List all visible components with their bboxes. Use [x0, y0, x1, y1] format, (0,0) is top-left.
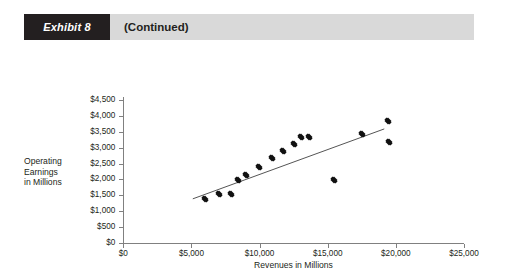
exhibit-badge: Exhibit 8 — [24, 14, 110, 40]
exhibit-badge-label: Exhibit 8 — [24, 14, 110, 40]
trend-line — [0, 44, 506, 266]
scatter-chart: OperatingEarningsin Millions Revenues in… — [0, 44, 506, 266]
exhibit-title: (Continued) — [124, 14, 189, 40]
plot-area — [0, 44, 506, 266]
exhibit-header: Exhibit 8 (Continued) — [24, 14, 474, 40]
